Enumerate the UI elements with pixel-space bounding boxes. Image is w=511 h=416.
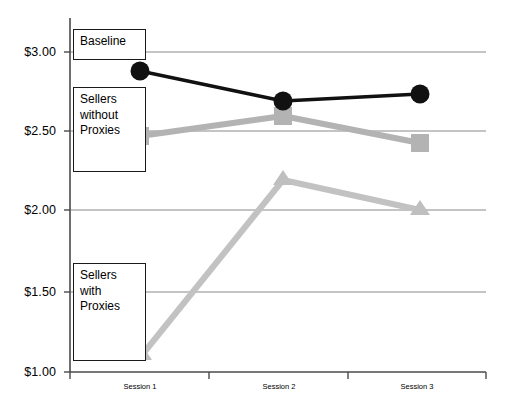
annotation-sellers-with-proxies: Sellers with Proxies — [73, 263, 146, 361]
series-sellers-without-proxies — [131, 107, 429, 152]
x-axis-label-session-3: Session 3 — [387, 382, 447, 391]
data-point-with-proxies-s2 — [273, 170, 293, 185]
annotation-without-proxies-line-3: Proxies — [80, 123, 145, 139]
annotation-baseline-line-1: Baseline — [80, 34, 145, 50]
y-axis-ticks — [64, 52, 70, 372]
data-point-baseline-s2 — [274, 92, 293, 111]
data-point-without-proxies-s3 — [411, 134, 429, 152]
annotation-without-proxies-line-2: without — [80, 108, 145, 124]
annotation-with-proxies-line-2: with — [80, 284, 145, 300]
annotation-baseline: Baseline — [73, 29, 146, 60]
annotation-without-proxies-line-1: Sellers — [80, 92, 145, 108]
chart-container: $3.00 $2.50 $2.00 $1.50 $1.00 Session 1 … — [0, 0, 511, 416]
y-axis-label-2-50: $2.50 — [0, 124, 56, 138]
y-axis-label-1-50: $1.50 — [0, 285, 56, 299]
x-axis-label-session-2: Session 2 — [249, 382, 309, 391]
series-with-proxies-line — [142, 180, 420, 355]
y-axis-label-3-00: $3.00 — [0, 45, 56, 59]
annotation-sellers-without-proxies: Sellers without Proxies — [73, 87, 146, 172]
x-axis-label-session-1: Session 1 — [110, 382, 170, 391]
annotation-with-proxies-line-1: Sellers — [80, 268, 145, 284]
y-axis-label-2-00: $2.00 — [0, 203, 56, 217]
data-point-baseline-s1 — [131, 62, 150, 81]
annotation-with-proxies-line-3: Proxies — [80, 299, 145, 315]
y-axis-label-1-00: $1.00 — [0, 365, 56, 379]
series-sellers-with-proxies — [132, 170, 430, 360]
x-axis-ticks — [70, 372, 486, 379]
data-point-baseline-s3 — [411, 85, 430, 104]
series-baseline — [131, 62, 430, 111]
